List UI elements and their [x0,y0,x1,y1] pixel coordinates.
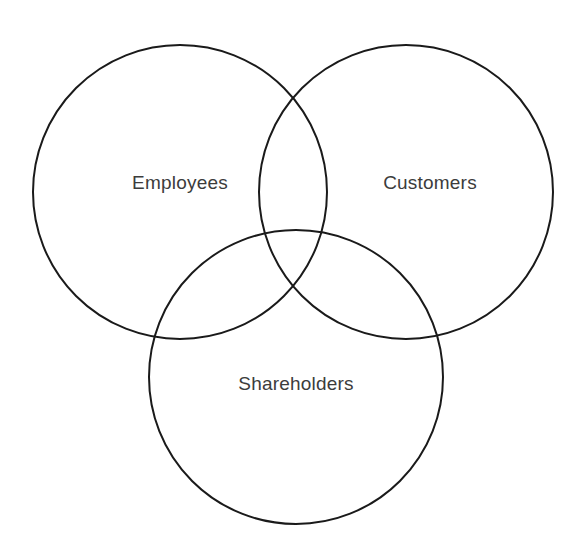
venn-diagram-root: Employees Customers Shareholders [0,0,588,556]
label-shareholders: Shareholders [238,373,353,394]
label-employees: Employees [132,172,228,193]
venn-diagram-canvas: Employees Customers Shareholders [0,0,588,556]
diagram-background [0,0,588,556]
label-customers: Customers [383,172,477,193]
